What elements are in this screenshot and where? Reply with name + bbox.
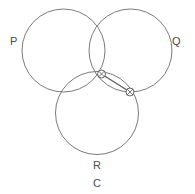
label-q: Q xyxy=(172,35,181,47)
marker-point-1 xyxy=(98,70,106,78)
marker-point-2 xyxy=(126,88,134,96)
circle-q xyxy=(89,9,172,92)
circle-r xyxy=(56,72,139,155)
label-p: P xyxy=(10,35,18,47)
circle-p xyxy=(22,9,105,92)
label-c: C xyxy=(93,177,101,189)
venn-diagram-canvas: P Q R C xyxy=(0,0,195,194)
venn-diagram-figure: P Q R C xyxy=(0,0,195,194)
label-r: R xyxy=(93,159,101,171)
